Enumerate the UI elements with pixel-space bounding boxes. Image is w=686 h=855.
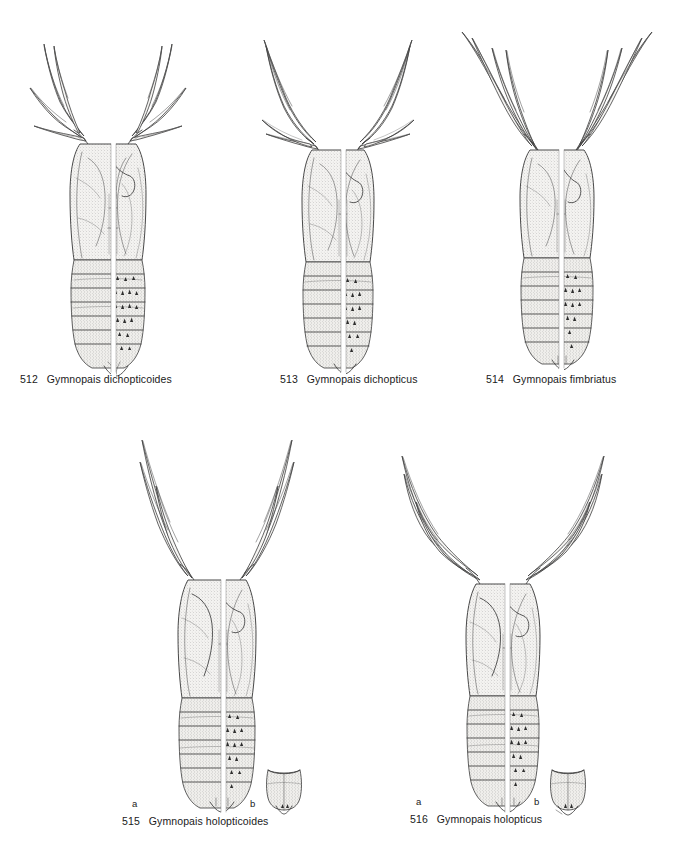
figure-516: a b 516Gymnopais holopticus: [398, 428, 648, 810]
thorax-515: [178, 580, 256, 698]
gill-filaments-left-512: [30, 44, 88, 144]
inset-b-terminal-segment-515: [267, 770, 302, 814]
gill-filaments-right-514: [576, 32, 652, 152]
abdomen-514: [521, 258, 593, 370]
midline-split-516: [505, 582, 510, 816]
figure-number-516: 516: [410, 813, 428, 825]
figure-513: 513Gymnopais dichopticus: [238, 22, 448, 368]
figure-number-515: 515: [122, 815, 140, 827]
caption-514: 514Gymnopais fimbriatus: [486, 373, 616, 385]
species-name-515: Gymnopais holopticoides: [149, 815, 269, 827]
gill-filaments-right-513: [356, 40, 414, 152]
midline-split-513: [341, 148, 346, 376]
gill-filaments-left-516: [402, 456, 480, 584]
species-name-513: Gymnopais dichopticus: [307, 373, 418, 385]
gill-filaments-left-515: [140, 440, 194, 580]
thorax-513: [302, 150, 374, 262]
gill-filaments-right-516: [526, 456, 604, 584]
figure-number-514: 514: [486, 373, 504, 385]
gill-filaments-left-514: [462, 32, 538, 152]
caption-516: 516Gymnopais holopticus: [410, 813, 542, 825]
figure-512: 512Gymnopais dichopticoides: [8, 18, 218, 368]
sublabel-a-515: a: [132, 798, 137, 809]
species-name-512: Gymnopais dichopticoides: [47, 373, 172, 385]
figure-515: a b 515Gymnopais holopticoides: [112, 432, 362, 810]
species-name-514: Gymnopais fimbriatus: [513, 373, 617, 385]
pupa-drawing-515: [112, 432, 362, 810]
inset-b-terminal-segment-516: [551, 770, 586, 815]
midline-split-514: [559, 148, 564, 374]
abdomen-513: [303, 262, 373, 374]
gill-filaments-right-515: [240, 440, 294, 580]
figure-number-513: 513: [280, 373, 298, 385]
pupa-drawing-516: [398, 428, 648, 810]
gill-filaments-left-513: [262, 40, 320, 152]
pupa-drawing-513: [238, 22, 448, 368]
thorax-516: [466, 584, 540, 696]
sublabel-b-516: b: [534, 796, 539, 807]
sublabel-b-515: b: [250, 798, 255, 809]
abdomen-516: [467, 696, 539, 812]
abdomen-512: [71, 260, 145, 376]
figure-number-512: 512: [20, 373, 38, 385]
gill-filaments-right-512: [128, 44, 186, 144]
midline-split-512: [111, 142, 116, 378]
illustration-plate: 512Gymnopais dichopticoides: [0, 0, 686, 855]
abdomen-515: [179, 698, 255, 812]
caption-513: 513Gymnopais dichopticus: [280, 373, 417, 385]
thorax-514: [520, 150, 594, 258]
sublabel-a-516: a: [416, 796, 421, 807]
figure-514: 514Gymnopais fimbriatus: [452, 20, 667, 368]
pupa-drawing-512: [8, 18, 218, 368]
pupa-drawing-514: [452, 20, 667, 368]
midline-split-515: [221, 578, 226, 816]
thorax-512: [70, 144, 146, 260]
caption-512: 512Gymnopais dichopticoides: [20, 373, 172, 385]
species-name-516: Gymnopais holopticus: [437, 813, 542, 825]
caption-515: 515Gymnopais holopticoides: [122, 815, 268, 827]
